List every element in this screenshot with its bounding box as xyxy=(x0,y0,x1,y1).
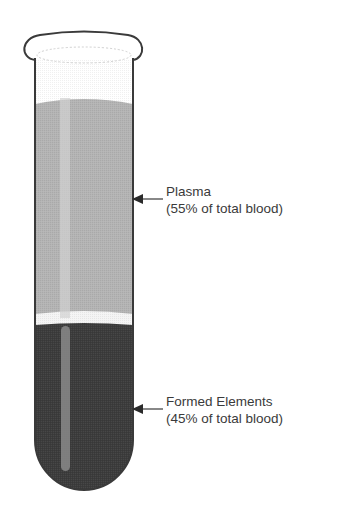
tube-rim xyxy=(24,32,142,61)
blood-test-tube-diagram xyxy=(0,0,353,515)
plasma-label: Plasma (55% of total blood) xyxy=(166,183,283,217)
formed-elements-percentage: (45% of total blood) xyxy=(166,410,283,427)
plasma-arrow xyxy=(132,194,163,204)
plasma-title: Plasma xyxy=(166,183,283,200)
glass-highlight xyxy=(60,98,70,318)
formed-elements-title: Formed Elements xyxy=(166,393,283,410)
formed-elements-label: Formed Elements (45% of total blood) xyxy=(166,393,283,427)
plasma-percentage: (55% of total blood) xyxy=(166,200,283,217)
formed-elements-arrow xyxy=(132,404,163,414)
tube-interior xyxy=(35,50,133,500)
